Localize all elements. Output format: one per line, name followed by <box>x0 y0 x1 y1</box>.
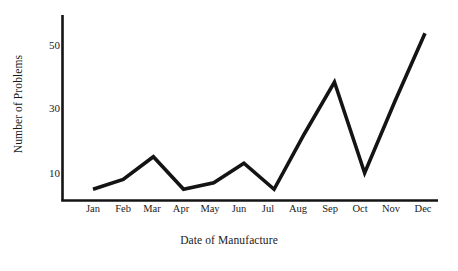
y-tick-label-50: 50 <box>26 39 60 51</box>
line-chart-figure: Number of Problems 50 30 10 Jan Feb Mar … <box>0 0 458 271</box>
y-tick-label-30: 30 <box>26 102 60 114</box>
y-tick-label-10: 10 <box>26 167 60 179</box>
x-axis-title: Date of Manufacture <box>0 234 458 246</box>
x-tick-label-dec: Dec <box>403 203 443 214</box>
chart-background <box>0 0 458 271</box>
y-axis-title: Number of Problems <box>12 24 24 184</box>
chart-plot-area <box>0 0 458 271</box>
